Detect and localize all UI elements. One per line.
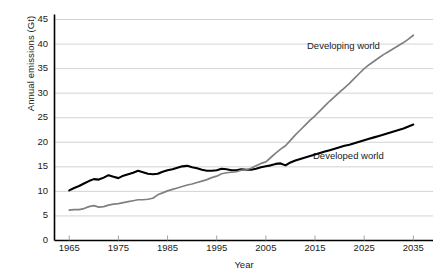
y-axis-title: Annual emissions (Gt) xyxy=(25,0,36,154)
y-tick-10: 10 xyxy=(26,186,48,196)
series-line-developing-world xyxy=(69,35,413,210)
x-tick-2015: 2015 xyxy=(295,242,335,253)
x-tick-2035: 2035 xyxy=(393,242,433,253)
x-axis-tick-labels: 19651975198519952005201520252035 xyxy=(0,242,447,256)
series-label-developing-world: Developing world xyxy=(307,40,380,51)
y-tick-5: 5 xyxy=(26,210,48,220)
x-tick-2005: 2005 xyxy=(246,242,286,253)
x-tick-1965: 1965 xyxy=(49,242,89,253)
x-tick-1985: 1985 xyxy=(148,242,188,253)
x-tick-1995: 1995 xyxy=(197,242,237,253)
series-label-developed-world: Developed world xyxy=(313,150,384,161)
x-axis-title: Year xyxy=(54,259,434,270)
x-tick-2025: 2025 xyxy=(344,242,384,253)
data-series xyxy=(69,35,413,210)
y-tick-15: 15 xyxy=(26,161,48,171)
emissions-line-chart: 454035302520151050 196519751985199520052… xyxy=(0,0,447,277)
chart-plot-area xyxy=(0,0,447,277)
x-tick-1975: 1975 xyxy=(98,242,138,253)
